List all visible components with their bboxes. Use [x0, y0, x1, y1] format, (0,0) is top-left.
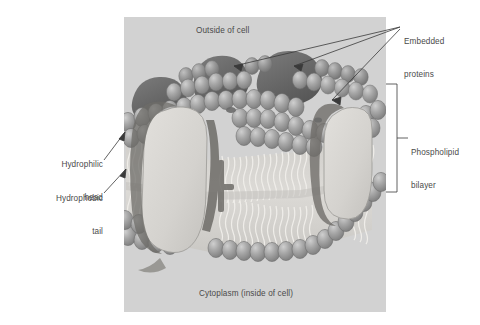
label-cytoplasm: Cytoplasm (inside of cell): [199, 288, 293, 299]
label-phospholipid-bilayer-line2: bilayer: [411, 180, 459, 191]
label-outside-of-cell: Outside of cell: [196, 25, 249, 36]
label-hydrophobic-tail-line1: Hydrophobic: [11, 193, 103, 204]
label-hydrophobic-tail-line2: tail: [11, 226, 103, 237]
label-phospholipid-bilayer-line1: Phospholipid: [411, 147, 459, 158]
label-embedded-proteins-line1: Embedded: [404, 36, 444, 47]
label-hydrophilic-head-line1: Hydrophilic: [19, 159, 103, 170]
label-embedded-proteins: Embedded proteins: [404, 14, 444, 91]
label-phospholipid-bilayer: Phospholipid bilayer: [411, 125, 459, 202]
label-hydrophobic-tail: Hydrophobic tail: [11, 171, 103, 248]
label-embedded-proteins-line2: proteins: [404, 69, 444, 80]
